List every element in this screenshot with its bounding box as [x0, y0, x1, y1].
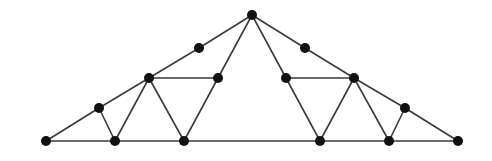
truss-joint-M — [384, 136, 394, 146]
truss-member-NE — [218, 15, 252, 78]
truss-member-CK — [149, 78, 184, 141]
truss-member-BJ — [99, 108, 115, 141]
truss-member-HM — [389, 108, 405, 141]
truss-joint-N — [213, 73, 223, 83]
truss-member-CD — [149, 48, 199, 78]
truss-member-HI — [405, 108, 458, 141]
truss-joint-F — [300, 43, 310, 53]
truss-joints — [41, 10, 463, 146]
truss-joint-A — [41, 136, 51, 146]
truss-joint-H — [400, 103, 410, 113]
roof-truss-diagram — [0, 0, 492, 161]
truss-joint-C — [144, 73, 154, 83]
truss-member-DE — [199, 15, 252, 48]
truss-member-FG — [305, 48, 354, 78]
truss-joint-K — [179, 136, 189, 146]
truss-joint-J — [110, 136, 120, 146]
truss-member-EF — [252, 15, 305, 48]
truss-member-EO — [252, 15, 286, 78]
truss-members — [46, 15, 458, 141]
truss-joint-B — [94, 103, 104, 113]
truss-joint-D — [194, 43, 204, 53]
truss-joint-I — [453, 136, 463, 146]
truss-member-OL — [286, 78, 320, 141]
truss-member-NK — [184, 78, 218, 141]
truss-joint-L — [315, 136, 325, 146]
truss-member-GL — [320, 78, 354, 141]
truss-joint-G — [349, 73, 359, 83]
truss-joint-E — [247, 10, 257, 20]
truss-member-AB — [46, 108, 99, 141]
truss-joint-O — [281, 73, 291, 83]
